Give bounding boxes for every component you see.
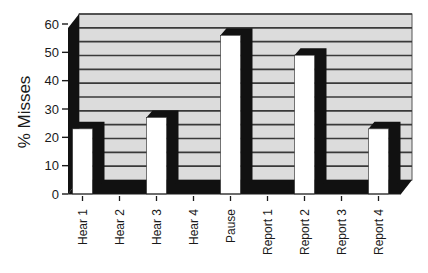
chart-canvas: 0102030405060 Hear 1Hear 2Hear 3Hear 4Pa… [0,0,428,273]
bar [369,122,401,194]
bar [295,48,327,194]
bar-face [73,129,93,194]
bar-face [295,55,315,194]
y-tick-label: 10 [45,158,59,173]
y-tick-label: 0 [52,187,59,202]
bar-face [369,129,389,194]
bar-face [147,118,167,195]
x-tick-label: Hear 4 [187,209,201,245]
x-tick-label: Report 1 [261,209,275,255]
y-tick-label: 30 [45,102,59,117]
y-axis-title: % Misses [15,76,34,149]
x-axis-labels: Hear 1Hear 2Hear 3Hear 4PauseReport 1Rep… [76,196,386,255]
x-tick-label: Hear 2 [113,209,127,245]
x-tick-label: Hear 1 [76,209,90,245]
bar [147,111,179,195]
y-tick-label: 20 [45,130,59,145]
x-tick-label: Report 4 [372,209,386,255]
bar [73,122,105,194]
y-tick-label: 40 [45,73,59,88]
x-tick-label: Report 2 [298,209,312,255]
y-tick-label: 50 [45,45,59,60]
bar-face [221,35,241,194]
bar [221,28,253,194]
bar-chart: 0102030405060 Hear 1Hear 2Hear 3Hear 4Pa… [0,0,428,273]
y-tick-label: 60 [45,17,59,32]
x-tick-label: Hear 3 [150,209,164,245]
x-tick-label: Report 3 [335,209,349,255]
x-tick-label: Pause [224,209,238,243]
